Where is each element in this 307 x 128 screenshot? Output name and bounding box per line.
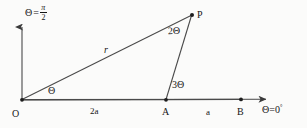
fraction-numerator: π xyxy=(40,4,46,12)
degree-symbol: ° xyxy=(280,104,282,110)
label-angle-2theta: 2Θ xyxy=(168,26,181,36)
geometry-figure: Θ = π 2 P 2Θ r Θ O 2a A 3Θ a B Θ=0° xyxy=(0,0,307,128)
label-radius-r: r xyxy=(104,45,108,55)
label-point-p: P xyxy=(197,10,203,20)
label-angle-3theta: 3Θ xyxy=(172,80,184,90)
vertex-a-dot xyxy=(164,98,168,102)
vertex-b-dot xyxy=(239,98,243,102)
vertical-axis-theta-symbol: Θ xyxy=(25,8,32,18)
vertical-axis-equals: = xyxy=(33,8,39,18)
vertex-o-dot xyxy=(20,98,24,102)
vertical-axis-label: Θ = π 2 xyxy=(25,4,47,22)
label-angle-theta: Θ xyxy=(48,86,55,96)
label-point-b: B xyxy=(237,107,244,117)
pi-over-two-fraction: π 2 xyxy=(40,4,47,22)
vertex-p-dot xyxy=(190,13,194,17)
label-segment-2a: 2a xyxy=(90,107,99,116)
label-segment-a: a xyxy=(206,108,210,117)
fraction-denominator: 2 xyxy=(40,13,46,21)
label-point-a: A xyxy=(162,107,169,117)
label-point-o: O xyxy=(12,109,19,119)
horizontal-axis-label: Θ=0° xyxy=(262,104,282,115)
